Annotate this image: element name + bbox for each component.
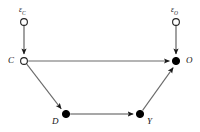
edges-layer — [24, 26, 176, 114]
label-o: O — [186, 56, 193, 65]
node-c — [21, 58, 28, 65]
node-epsilon-c — [21, 19, 28, 26]
node-epsilon-o — [173, 19, 180, 26]
label-epsilon-c: εC — [19, 6, 26, 16]
nodes-layer — [21, 19, 180, 118]
edge-C-to-D — [27, 64, 61, 109]
label-d: D — [52, 117, 59, 126]
label-y: Y — [147, 117, 152, 126]
causal-graph — [0, 0, 200, 132]
label-c: C — [8, 56, 14, 65]
node-d — [62, 110, 69, 117]
edge-Y-to-O — [143, 68, 174, 111]
causal-diagram-canvas: εC εO C O D Y — [0, 0, 200, 132]
node-y — [136, 110, 143, 117]
label-epsilon-o: εO — [171, 6, 178, 16]
node-o — [172, 57, 179, 64]
